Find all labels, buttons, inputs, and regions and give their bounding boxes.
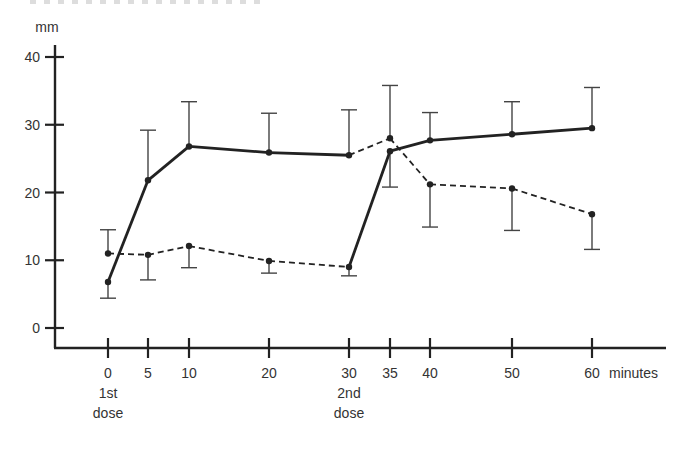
solid-segment	[430, 134, 512, 140]
data-point	[509, 131, 515, 137]
data-point	[589, 125, 595, 131]
line-chart: 010203040mm0510203035405060minutes1stdos…	[0, 0, 680, 449]
data-point	[427, 181, 433, 187]
x-tick-label: 20	[261, 365, 277, 381]
data-point	[509, 185, 515, 191]
dose-label-line2: dose	[93, 405, 124, 421]
solid-segment	[189, 146, 269, 152]
y-tick-label: 10	[24, 252, 40, 268]
x-tick-label: 5	[144, 365, 152, 381]
dose-label-line1: 1st	[99, 385, 118, 401]
solid-segment	[108, 180, 148, 282]
y-tick-label: 30	[24, 117, 40, 133]
series-lines	[108, 128, 592, 282]
data-point	[266, 149, 272, 155]
y-tick-label: 40	[24, 49, 40, 65]
x-unit-label: minutes	[609, 365, 658, 381]
y-tick-label: 20	[24, 185, 40, 201]
data-point	[387, 135, 393, 141]
x-tick-label: 0	[104, 365, 112, 381]
x-tick-label: 30	[341, 365, 357, 381]
solid-segment	[512, 128, 592, 134]
dashed-segment	[269, 261, 349, 267]
x-tick-label: 40	[422, 365, 438, 381]
data-point	[387, 148, 393, 154]
dashed-segment	[430, 184, 512, 188]
solid-segment	[349, 151, 390, 267]
solid-segment	[269, 153, 349, 156]
data-point	[186, 143, 192, 149]
axis-labels: 010203040mm0510203035405060minutes1stdos…	[24, 19, 658, 421]
data-point	[105, 250, 111, 256]
solid-segment	[390, 140, 430, 151]
x-tick-label: 35	[382, 365, 398, 381]
solid-segment	[148, 146, 189, 180]
dose-label-line2: dose	[334, 405, 365, 421]
data-point	[346, 152, 352, 158]
data-point	[427, 137, 433, 143]
dashed-segment	[189, 246, 269, 261]
x-tick-label: 60	[584, 365, 600, 381]
x-tick-label: 50	[504, 365, 520, 381]
dashed-segment	[108, 253, 148, 254]
data-point	[589, 211, 595, 217]
data-point	[145, 252, 151, 258]
dose-label-line1: 2nd	[337, 385, 360, 401]
data-point	[266, 258, 272, 264]
dashed-segment	[349, 138, 390, 155]
dashed-segment	[512, 188, 592, 214]
data-point	[105, 279, 111, 285]
data-point	[346, 264, 352, 270]
x-tick-label: 10	[181, 365, 197, 381]
data-point	[186, 243, 192, 249]
y-tick-label: 0	[32, 320, 40, 336]
data-point	[145, 177, 151, 183]
y-unit-label: mm	[35, 19, 58, 35]
axes	[45, 45, 666, 358]
dashed-segment	[148, 246, 189, 255]
